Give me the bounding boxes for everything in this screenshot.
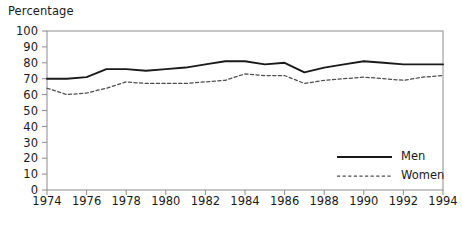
x-tick-label: 1992 (383, 196, 423, 208)
x-tick-label: 1986 (265, 196, 305, 208)
legend-label-women: Women (401, 170, 444, 182)
y-axis-ticks (42, 31, 47, 190)
series-line-men (47, 61, 443, 78)
legend-lines (337, 157, 392, 176)
x-tick-label: 1988 (304, 196, 344, 208)
x-tick-label: 1990 (344, 196, 384, 208)
chart-figure: Percentage 100 90 80 70 60 50 40 30 20 1… (0, 0, 462, 228)
plot-frame (47, 31, 443, 190)
x-tick-label: 1982 (185, 196, 225, 208)
x-tick-label: 1994 (423, 196, 462, 208)
series-line-women (47, 74, 443, 95)
plot-frame-rect (47, 31, 443, 190)
legend-label-men: Men (401, 151, 425, 163)
x-tick-label: 1984 (225, 196, 265, 208)
x-tick-label: 1978 (106, 196, 146, 208)
data-series-group (47, 61, 443, 94)
x-tick-label: 1974 (27, 196, 67, 208)
x-tick-label: 1976 (67, 196, 107, 208)
x-tick-label: 1980 (146, 196, 186, 208)
